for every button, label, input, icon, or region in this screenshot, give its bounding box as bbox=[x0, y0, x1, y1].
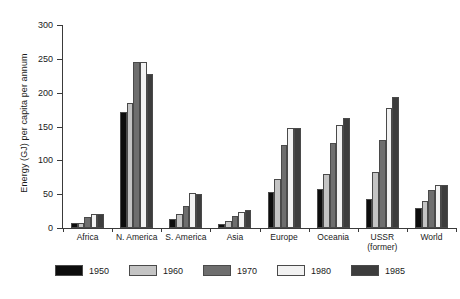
chart-figure: Energy (GJ) per capita per annum 0501001… bbox=[0, 0, 460, 299]
bar[interactable] bbox=[422, 201, 429, 228]
x-axis-label-line: Oceania bbox=[317, 232, 349, 242]
x-axis-label-line: (former) bbox=[367, 242, 397, 252]
legend-swatch bbox=[203, 265, 231, 276]
legend-swatch bbox=[351, 265, 379, 276]
bar-group bbox=[415, 25, 448, 228]
bar[interactable] bbox=[428, 190, 435, 228]
legend-swatch bbox=[277, 265, 305, 276]
x-tick-mark bbox=[309, 228, 310, 232]
y-tick-label: 200 bbox=[38, 88, 53, 98]
bar[interactable] bbox=[336, 125, 343, 228]
bar[interactable] bbox=[343, 118, 350, 228]
bar[interactable] bbox=[218, 224, 225, 228]
bar[interactable] bbox=[366, 199, 373, 228]
legend-item[interactable]: 1970 bbox=[203, 265, 257, 276]
x-tick-mark bbox=[407, 228, 408, 232]
bar[interactable] bbox=[127, 103, 134, 228]
x-tick-mark bbox=[112, 228, 113, 232]
bar-series-container bbox=[63, 25, 456, 228]
bar[interactable] bbox=[268, 192, 275, 228]
x-tick-mark bbox=[63, 228, 64, 232]
x-axis-label-line: USSR bbox=[367, 232, 397, 242]
x-tick-mark bbox=[358, 228, 359, 232]
bar[interactable] bbox=[415, 208, 422, 228]
bar[interactable] bbox=[392, 97, 399, 228]
bar[interactable] bbox=[435, 185, 442, 228]
bar[interactable] bbox=[140, 62, 147, 228]
bar[interactable] bbox=[281, 145, 288, 228]
legend-item[interactable]: 1950 bbox=[55, 265, 109, 276]
x-axis-label-line: Africa bbox=[77, 232, 99, 242]
legend-item[interactable]: 1985 bbox=[351, 265, 405, 276]
bar[interactable] bbox=[294, 128, 301, 228]
x-axis-label: S. America bbox=[165, 232, 206, 242]
x-tick-mark bbox=[456, 228, 457, 232]
y-tick-label: 100 bbox=[38, 155, 53, 165]
bar[interactable] bbox=[84, 217, 91, 229]
y-axis-title: Energy (GJ) per capita per annum bbox=[19, 18, 29, 228]
x-axis-label-line: Asia bbox=[227, 232, 244, 242]
bar-group bbox=[71, 25, 104, 228]
legend-label: 1985 bbox=[385, 266, 405, 276]
x-axis-label: N. America bbox=[116, 232, 158, 242]
legend-swatch bbox=[55, 265, 83, 276]
bar[interactable] bbox=[441, 185, 448, 228]
bar-group bbox=[317, 25, 350, 228]
legend-label: 1960 bbox=[163, 266, 183, 276]
bar[interactable] bbox=[133, 62, 140, 228]
bar[interactable] bbox=[78, 223, 85, 228]
y-tick-label: 250 bbox=[38, 54, 53, 64]
x-axis-label-line: N. America bbox=[116, 232, 158, 242]
bar[interactable] bbox=[330, 143, 337, 228]
bar-group bbox=[366, 25, 399, 228]
bar[interactable] bbox=[386, 108, 393, 228]
bar[interactable] bbox=[169, 219, 176, 228]
x-axis-label: World bbox=[420, 232, 442, 242]
y-tick-label: 0 bbox=[48, 223, 53, 233]
y-tick-label: 300 bbox=[38, 20, 53, 30]
bar[interactable] bbox=[274, 179, 281, 228]
legend-label: 1970 bbox=[237, 266, 257, 276]
bar-group bbox=[120, 25, 153, 228]
bar[interactable] bbox=[238, 212, 245, 228]
y-tick-label: 50 bbox=[43, 189, 53, 199]
x-axis-label-line: S. America bbox=[165, 232, 206, 242]
legend-label: 1980 bbox=[311, 266, 331, 276]
legend-item[interactable]: 1960 bbox=[129, 265, 183, 276]
x-axis-label: USSR(former) bbox=[367, 232, 397, 252]
bar[interactable] bbox=[120, 112, 127, 228]
bar[interactable] bbox=[176, 214, 183, 228]
chart-legend: 19501960197019801985 bbox=[0, 265, 460, 276]
x-axis-label: Asia bbox=[227, 232, 244, 242]
y-tick-label: 150 bbox=[38, 122, 53, 132]
bar[interactable] bbox=[372, 172, 379, 228]
x-axis-label: Oceania bbox=[317, 232, 349, 242]
legend-label: 1950 bbox=[89, 266, 109, 276]
bar[interactable] bbox=[189, 193, 196, 228]
legend-swatch bbox=[129, 265, 157, 276]
bar[interactable] bbox=[97, 214, 104, 228]
x-axis-label-line: Europe bbox=[270, 232, 297, 242]
bar[interactable] bbox=[225, 221, 232, 228]
bar[interactable] bbox=[317, 189, 324, 228]
x-tick-mark bbox=[161, 228, 162, 232]
bar-group bbox=[218, 25, 251, 228]
x-axis-label-line: World bbox=[420, 232, 442, 242]
plot-area: 050100150200250300 AfricaN. AmericaS. Am… bbox=[62, 25, 456, 228]
x-tick-mark bbox=[260, 228, 261, 232]
bar[interactable] bbox=[245, 210, 252, 228]
bar[interactable] bbox=[91, 214, 98, 228]
x-axis-label: Europe bbox=[270, 232, 297, 242]
x-axis-label: Africa bbox=[77, 232, 99, 242]
bar[interactable] bbox=[71, 223, 78, 228]
bar[interactable] bbox=[379, 140, 386, 228]
x-tick-mark bbox=[210, 228, 211, 232]
bar[interactable] bbox=[287, 128, 294, 228]
bar[interactable] bbox=[232, 216, 239, 228]
bar[interactable] bbox=[323, 174, 330, 228]
legend-item[interactable]: 1980 bbox=[277, 265, 331, 276]
bar-group bbox=[169, 25, 202, 228]
bar[interactable] bbox=[147, 74, 154, 228]
bar[interactable] bbox=[196, 194, 203, 229]
bar[interactable] bbox=[183, 206, 190, 228]
